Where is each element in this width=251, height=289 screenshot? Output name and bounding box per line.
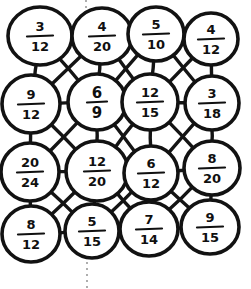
fraction-node-r2c4[interactable]: 318 <box>185 76 239 130</box>
fraction-denominator: 12 <box>31 39 49 54</box>
fraction-denominator: 12 <box>22 107 40 122</box>
fraction-denominator: 12 <box>142 176 160 191</box>
fraction-denominator: 15 <box>201 230 219 245</box>
fraction-denominator: 15 <box>141 105 159 120</box>
connection-line <box>152 61 153 74</box>
fraction-numerator: 12 <box>88 154 106 169</box>
fraction-bar <box>197 227 223 228</box>
fraction-denominator: 20 <box>203 171 221 186</box>
fraction-numerator: 7 <box>144 212 153 227</box>
fraction-numerator: 8 <box>26 217 35 232</box>
fraction-bar <box>137 102 163 103</box>
fraction-denominator: 18 <box>203 106 221 121</box>
fraction-node-r4c1[interactable]: 812 <box>2 206 60 262</box>
fraction-bar <box>27 36 53 37</box>
fraction-denominator: 20 <box>93 39 111 54</box>
worksheet-canvas: 3124205104129126912153182024122061282081… <box>0 0 251 289</box>
fraction-numerator: 5 <box>151 17 160 32</box>
fraction-numerator: 12 <box>141 85 159 100</box>
fraction-denominator: 15 <box>83 234 101 249</box>
fraction-bar <box>138 173 164 174</box>
fraction-node-r1c2[interactable]: 420 <box>72 8 132 64</box>
fraction-bar <box>87 102 107 103</box>
fraction-node-r3c3[interactable]: 612 <box>124 146 178 200</box>
fraction-bar <box>18 104 44 105</box>
fraction-node-r4c3[interactable]: 714 <box>120 202 178 256</box>
fraction-bar <box>198 39 224 40</box>
fraction-node-r3c2[interactable]: 1220 <box>66 141 128 201</box>
fraction-numerator: 6 <box>146 156 155 171</box>
fraction-numerator: 8 <box>207 151 216 166</box>
fraction-numerator: 6 <box>92 84 102 102</box>
fraction-bar <box>199 103 225 104</box>
fraction-numerator: 20 <box>21 155 39 170</box>
fraction-denominator: 12 <box>202 42 220 57</box>
fraction-bar <box>79 231 105 232</box>
fraction-node-r3c4[interactable]: 820 <box>184 141 240 195</box>
fraction-numerator: 4 <box>97 19 106 34</box>
fraction-node-r2c1[interactable]: 912 <box>2 75 60 133</box>
fraction-node-r1c1[interactable]: 312 <box>8 7 72 65</box>
fraction-bar <box>143 34 169 35</box>
fraction-node-r1c3[interactable]: 510 <box>128 7 184 61</box>
fraction-bar <box>18 234 44 235</box>
fraction-numerator: 9 <box>205 210 214 225</box>
fraction-numerator: 5 <box>87 214 96 229</box>
fraction-node-r1c4[interactable]: 412 <box>184 13 238 65</box>
fraction-numerator: 9 <box>26 87 35 102</box>
fraction-numerator: 3 <box>207 86 216 101</box>
fraction-node-r3c1[interactable]: 2024 <box>1 143 59 201</box>
fraction-bar <box>199 168 225 169</box>
fraction-denominator: 10 <box>147 37 165 52</box>
fraction-node-r4c2[interactable]: 515 <box>65 204 119 258</box>
fraction-bar <box>89 36 115 37</box>
fraction-node-r2c2[interactable]: 69 <box>68 74 126 130</box>
connection-line <box>169 58 192 82</box>
fraction-bar <box>84 171 110 172</box>
fraction-denominator: 20 <box>88 174 106 189</box>
fraction-numerator: 4 <box>206 22 215 37</box>
fraction-denominator: 12 <box>22 237 40 252</box>
fraction-node-r2c3[interactable]: 1215 <box>122 74 178 130</box>
fraction-bar <box>136 229 162 230</box>
fraction-lattice-diagram: 3124205104129126912153182024122061282081… <box>0 0 251 289</box>
fraction-denominator: 14 <box>140 232 158 247</box>
fraction-numerator: 3 <box>35 19 44 34</box>
fraction-denominator: 9 <box>92 104 102 122</box>
fraction-node-r4c4[interactable]: 915 <box>181 200 239 254</box>
fraction-denominator: 24 <box>21 175 39 190</box>
connection-lines-layer <box>30 35 212 233</box>
fraction-bar <box>17 172 43 173</box>
connection-line <box>51 192 72 212</box>
